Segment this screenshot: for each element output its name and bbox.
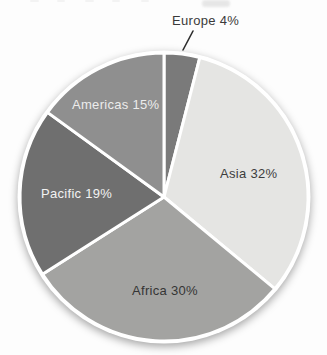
slice-label-americas: Americas 15% (72, 97, 159, 112)
slice-label-asia: Asia 32% (220, 166, 277, 181)
slice-label-africa: Africa 30% (132, 283, 198, 298)
pie-chart-figure: Europe 4% Asia 32% Africa 30% Pacific 19… (0, 0, 327, 355)
slice-label-europe: Europe 4% (172, 13, 239, 28)
europe-leader-line (183, 31, 193, 50)
slice-label-pacific: Pacific 19% (41, 186, 112, 201)
pie-chart (0, 0, 327, 355)
